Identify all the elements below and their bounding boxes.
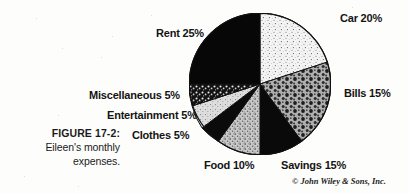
- pie-chart-svg: [189, 13, 331, 155]
- scan-speckle: [24, 176, 25, 177]
- pie-label-food: Food 10%: [204, 159, 254, 171]
- pie-label-clothes: Clothes 5%: [132, 129, 189, 141]
- pie-label-miscellaneous: Miscellaneous 5%: [89, 89, 180, 101]
- pie-label-car: Car 20%: [340, 12, 382, 24]
- scan-speckle: [352, 7, 353, 8]
- scan-speckle: [62, 48, 63, 49]
- pie-label-bills: Bills 15%: [344, 87, 391, 99]
- scan-speckle: [36, 18, 37, 19]
- scan-speckle: [78, 186, 79, 187]
- pie-chart: [189, 13, 331, 155]
- scan-speckle: [58, 115, 59, 116]
- figure-pie-chart: FIGURE 17-2: Eileen's monthly expenses.: [0, 0, 409, 193]
- copyright-credit: © John Wiley & Sons, Inc.: [292, 176, 386, 186]
- scan-speckle: [112, 36, 113, 37]
- figure-number: FIGURE 17-2:: [52, 127, 120, 139]
- pie-label-rent: Rent 25%: [156, 27, 204, 39]
- pie-label-entertainment: Entertainment 5%: [107, 109, 197, 121]
- pie-label-savings: Savings 15%: [281, 159, 346, 171]
- figure-caption-line-2: expenses.: [73, 155, 120, 167]
- figure-caption-line-1: Eileen's monthly: [45, 141, 120, 153]
- figure-caption: FIGURE 17-2: Eileen's monthly expenses.: [4, 126, 120, 168]
- scan-speckle: [151, 15, 152, 16]
- scan-speckle: [101, 57, 102, 58]
